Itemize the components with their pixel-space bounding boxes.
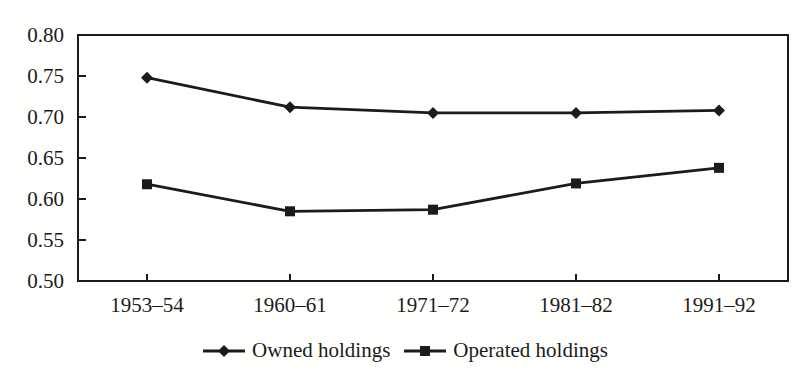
line-chart-figure: 0.500.550.600.650.700.750.801953–541960–…: [0, 0, 810, 384]
square-marker-icon: [142, 179, 152, 189]
legend-item-operated-holdings: Operated holdings: [403, 339, 608, 362]
y-tick-label: 0.75: [27, 64, 64, 88]
y-tick-label: 0.80: [27, 23, 64, 47]
square-marker-icon: [714, 163, 724, 173]
legend-label-operated-holdings: Operated holdings: [453, 339, 608, 362]
y-tick-label: 0.55: [27, 228, 64, 252]
square-marker-icon: [571, 178, 581, 188]
diamond-marker-icon: [284, 101, 296, 113]
y-tick-label: 0.60: [27, 187, 64, 211]
diamond-marker-icon: [713, 104, 725, 116]
y-tick-label: 0.70: [27, 105, 64, 129]
x-tick-label: 1953–54: [110, 293, 184, 317]
y-tick-label: 0.65: [27, 146, 64, 170]
square-marker-icon: [428, 205, 438, 215]
plot-border: [78, 35, 788, 281]
diamond-marker-icon: [141, 72, 153, 84]
square-marker-icon: [285, 206, 295, 216]
diamond-marker-icon: [202, 343, 246, 359]
y-tick-label: 0.50: [27, 269, 64, 293]
x-tick-label: 1981–82: [539, 293, 613, 317]
chart-legend: Owned holdings Operated holdings: [0, 339, 810, 362]
chart-plot-area: 0.500.550.600.650.700.750.801953–541960–…: [0, 0, 810, 322]
x-tick-label: 1991–92: [682, 293, 756, 317]
legend-label-owned-holdings: Owned holdings: [252, 339, 390, 362]
x-tick-label: 1971–72: [396, 293, 470, 317]
diamond-marker-icon: [570, 107, 582, 119]
legend-item-owned-holdings: Owned holdings: [202, 339, 390, 362]
square-marker-icon: [403, 343, 447, 359]
x-tick-label: 1960–61: [253, 293, 327, 317]
diamond-marker-icon: [427, 107, 439, 119]
